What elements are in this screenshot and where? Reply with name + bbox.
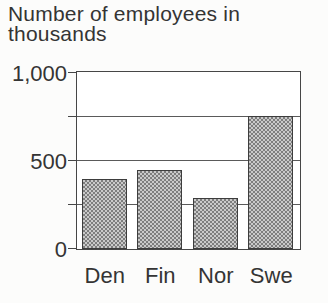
y-tick-label-500: 500 xyxy=(0,151,67,173)
chart-title-line-1: Number of employees in xyxy=(8,4,308,24)
y-tick-mark-750 xyxy=(68,116,76,118)
bar-fin xyxy=(137,170,182,249)
y-tick-mark-250 xyxy=(68,204,76,206)
y-tick-label-0: 0 xyxy=(0,239,67,261)
bar-swe xyxy=(248,116,293,249)
x-label-swe: Swe xyxy=(236,265,306,287)
chart-title-line-2: thousands xyxy=(8,24,308,44)
plot-area xyxy=(76,71,301,250)
bars-layer xyxy=(77,72,300,249)
y-tick-mark-500 xyxy=(68,160,76,162)
y-tick-mark-1000 xyxy=(68,72,76,74)
bar-nor xyxy=(193,198,238,249)
bar-den xyxy=(82,179,127,249)
y-tick-label-1000: 1,000 xyxy=(0,63,67,85)
bar-chart-figure: Number of employees in thousands 05001,0… xyxy=(0,0,328,303)
y-tick-mark-0 xyxy=(68,248,76,250)
chart-title: Number of employees in thousands xyxy=(8,4,308,44)
